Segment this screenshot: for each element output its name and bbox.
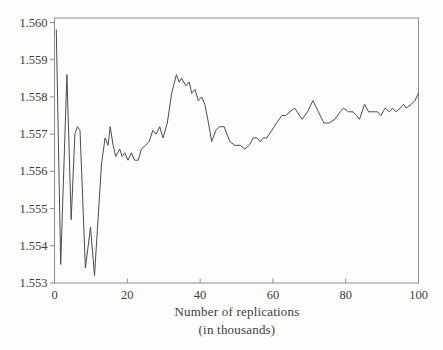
chart-canvas: 1.5531.5541.5551.5561.5571.5581.5591.560… xyxy=(0,0,443,350)
y-tick-label: 1.555 xyxy=(19,202,47,216)
y-tick-label: 1.560 xyxy=(19,16,47,30)
x-tick-label: 60 xyxy=(267,288,280,302)
series-line-running-mean-estimate xyxy=(56,30,418,276)
y-tick-label: 1.553 xyxy=(19,276,47,290)
convergence-line-chart: 1.5531.5541.5551.5561.5571.5581.5591.560… xyxy=(0,0,443,350)
x-tick-label: 80 xyxy=(339,288,352,302)
y-tick-label: 1.554 xyxy=(19,239,48,253)
x-tick-label: 0 xyxy=(51,288,57,302)
plot-frame xyxy=(55,18,419,283)
x-tick-label: 100 xyxy=(409,288,428,302)
y-tick-label: 1.556 xyxy=(19,164,47,178)
y-tick-label: 1.557 xyxy=(19,127,47,141)
x-tick-label: 40 xyxy=(194,288,207,302)
x-axis-title-units: (in thousands) xyxy=(55,322,419,338)
y-tick-label: 1.558 xyxy=(19,90,47,104)
y-tick-label: 1.559 xyxy=(19,53,47,67)
x-tick-label: 20 xyxy=(121,288,134,302)
x-axis-title: Number of replications xyxy=(55,304,419,320)
